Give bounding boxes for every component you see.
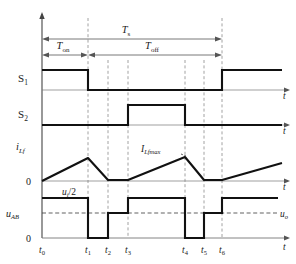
tick-t1: t1 (85, 245, 91, 256)
toff-arrow-left (88, 52, 95, 57)
s1-waveform (42, 70, 282, 90)
tick-t6: t6 (219, 245, 226, 256)
ts-label: Ts (122, 24, 131, 38)
ton-label: Ton (57, 40, 70, 54)
s2-waveform (42, 105, 282, 125)
ui-half-label: ui/2 (62, 187, 76, 198)
uab-waveform (42, 198, 278, 238)
ilfmax-label: ILfmax (140, 144, 161, 155)
s1-label: S1 (18, 72, 28, 87)
ts-arrow-left (42, 36, 49, 41)
uab-trace-group: uAB 0 ui/2 uo t (6, 187, 290, 252)
s1-trace-group: S1 t (18, 70, 290, 101)
s2-trace-group: S2 t (18, 105, 290, 136)
s2-label: S2 (18, 108, 28, 123)
uab-label: uAB (6, 208, 19, 220)
uab-time-axis-label: t (283, 242, 286, 252)
s2-time-axis-label: t (283, 126, 286, 136)
toff-arrow-right (215, 52, 222, 57)
tick-t5: t5 (201, 245, 207, 256)
ilf-time-axis-label: t (283, 182, 286, 192)
uab-axis-arrow (284, 236, 290, 241)
toff-label: Toff (145, 40, 160, 54)
ton-arrow-left (42, 52, 49, 57)
vertical-axis-arrow (39, 12, 44, 19)
ilf-zero-label: 0 (26, 176, 31, 187)
tick-t4: t4 (182, 245, 189, 256)
uo-label: uo (280, 209, 289, 220)
uab-zero-label: 0 (26, 233, 31, 244)
ilf-trace-group: iLf 0 ILfmax t (16, 141, 290, 192)
ton-arrow-right (81, 52, 88, 57)
tick-t3: t3 (125, 245, 131, 256)
ts-dimension: Ts (42, 24, 222, 42)
timing-diagram-svg: Ts Ton Toff S1 t S2 t iLf 0 ILfmax (0, 0, 296, 264)
ts-arrow-right (215, 36, 222, 41)
tick-t0: t0 (39, 245, 45, 256)
ilf-waveform (42, 157, 282, 181)
figure-canvas: Ts Ton Toff S1 t S2 t iLf 0 ILfmax (0, 0, 296, 264)
tick-t2: t2 (105, 245, 111, 256)
ilf-label: iLf (16, 141, 26, 155)
toff-dimension: Toff (88, 40, 222, 58)
ton-dimension: Ton (42, 40, 88, 58)
s1-time-axis-label: t (283, 91, 286, 101)
time-tick-labels: t0 t1 t2 t3 t4 t5 t6 (39, 245, 226, 256)
